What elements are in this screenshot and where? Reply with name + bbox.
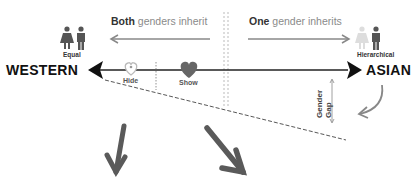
hide-label: Hide [123, 77, 138, 84]
bottom-arrow-down [107, 126, 125, 172]
gender-gap-line [105, 80, 346, 140]
asian-label: ASIAN [366, 62, 411, 78]
bottom-arrow-diagonal [207, 128, 243, 172]
hierarchical-label: Hierarchical [357, 51, 394, 58]
western-label: WESTERN [6, 62, 78, 78]
equal-icon [60, 26, 85, 50]
both-genders-inherit-label: Both genders inherit [111, 15, 207, 27]
one-gender-inherits-label: One gender inherits [249, 15, 342, 27]
equal-label: Equal [63, 51, 81, 58]
hierarchical-icon [355, 26, 380, 50]
heart-filled-icon [181, 62, 198, 78]
gender-gap-label: GenderGap [315, 90, 333, 118]
show-label: Show [179, 79, 198, 86]
heart-outline-icon [125, 63, 136, 75]
diagram-graphics [0, 0, 420, 186]
right-arrow-head [347, 61, 362, 79]
